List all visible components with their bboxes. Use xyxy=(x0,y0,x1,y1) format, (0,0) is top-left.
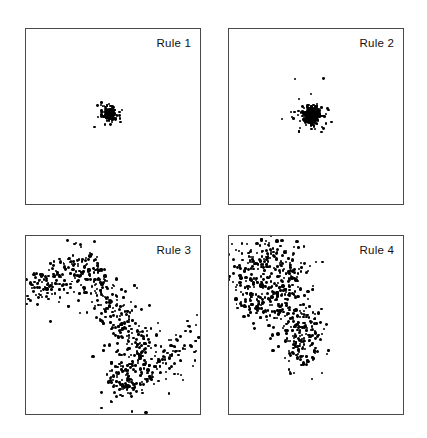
data-point xyxy=(143,338,145,340)
data-point xyxy=(112,106,115,109)
data-point xyxy=(255,242,258,245)
data-point xyxy=(279,289,281,291)
data-point xyxy=(183,344,186,347)
data-point xyxy=(87,268,90,271)
data-point xyxy=(96,299,99,302)
data-point xyxy=(253,327,256,330)
data-point xyxy=(306,360,309,363)
data-point xyxy=(106,296,109,299)
scatter-points-rule-1 xyxy=(26,29,200,204)
data-point xyxy=(250,273,253,276)
data-point xyxy=(280,239,283,242)
data-point xyxy=(297,246,300,249)
data-point xyxy=(129,311,132,314)
data-point xyxy=(106,287,109,290)
panel-label-rule-4: Rule 4 xyxy=(360,244,394,256)
data-point xyxy=(63,279,66,282)
plot-panel-rule-2[interactable]: Rule 2 xyxy=(228,28,404,205)
data-point xyxy=(26,295,28,297)
data-point xyxy=(103,268,106,271)
data-point xyxy=(326,353,328,355)
data-point xyxy=(93,307,96,310)
data-point xyxy=(293,372,295,374)
data-point xyxy=(131,319,133,321)
data-point xyxy=(271,333,274,336)
data-point xyxy=(135,390,138,393)
data-point xyxy=(112,332,115,335)
data-point xyxy=(168,339,170,341)
plot-panel-rule-1[interactable]: Rule 1 xyxy=(25,28,201,205)
data-point xyxy=(100,101,103,104)
data-point xyxy=(284,251,287,254)
data-point xyxy=(303,262,306,265)
data-point xyxy=(175,334,177,336)
data-point xyxy=(170,354,173,357)
data-point xyxy=(266,292,269,295)
data-point xyxy=(72,264,75,267)
data-point xyxy=(304,348,306,350)
data-point xyxy=(293,325,296,328)
data-point xyxy=(294,78,296,80)
data-point xyxy=(93,271,95,273)
data-point xyxy=(78,292,81,295)
data-point xyxy=(112,307,114,309)
data-point xyxy=(283,325,285,327)
data-point xyxy=(198,336,200,338)
data-point xyxy=(302,362,305,365)
data-point xyxy=(127,369,129,371)
data-point xyxy=(284,293,287,296)
data-point xyxy=(91,355,94,358)
data-point xyxy=(293,277,296,280)
data-point xyxy=(128,334,130,336)
data-point xyxy=(131,328,133,330)
data-point xyxy=(280,318,283,321)
data-point xyxy=(293,246,295,248)
data-point xyxy=(156,368,158,370)
data-point xyxy=(119,315,121,317)
data-point xyxy=(32,290,35,293)
data-point xyxy=(200,344,201,346)
plot-panel-rule-4[interactable]: Rule 4 xyxy=(228,235,404,415)
data-point xyxy=(165,362,168,365)
data-point xyxy=(316,350,319,353)
data-point xyxy=(315,261,317,263)
data-point xyxy=(149,376,152,379)
data-point xyxy=(303,310,305,312)
data-point xyxy=(322,77,325,80)
data-point xyxy=(259,316,262,319)
data-point xyxy=(107,380,110,383)
data-point xyxy=(122,296,125,299)
data-point xyxy=(77,279,80,282)
data-point xyxy=(137,333,140,336)
data-point xyxy=(276,265,279,268)
data-point xyxy=(265,315,268,318)
data-point xyxy=(273,317,275,319)
data-point xyxy=(236,284,238,286)
data-point xyxy=(173,345,176,348)
plot-panel-rule-3[interactable]: Rule 3 xyxy=(25,235,201,415)
data-point xyxy=(118,388,121,391)
data-point xyxy=(297,114,300,117)
data-point xyxy=(175,350,178,353)
data-point xyxy=(195,340,197,342)
data-point xyxy=(275,257,278,260)
data-point xyxy=(99,281,101,283)
data-point xyxy=(108,343,111,346)
data-point xyxy=(41,296,43,298)
data-point xyxy=(288,289,290,291)
data-point xyxy=(262,263,264,265)
data-point xyxy=(96,294,98,296)
data-point xyxy=(128,321,130,323)
data-point xyxy=(320,308,323,311)
data-point xyxy=(260,238,263,241)
data-point xyxy=(305,316,308,319)
data-point xyxy=(321,333,323,335)
data-point xyxy=(240,277,242,279)
data-point xyxy=(53,260,56,263)
data-point xyxy=(54,292,57,295)
data-point xyxy=(307,110,309,112)
scatter-points-rule-2 xyxy=(229,29,403,204)
data-point xyxy=(154,344,157,347)
data-point xyxy=(289,354,292,357)
data-point xyxy=(37,282,39,284)
